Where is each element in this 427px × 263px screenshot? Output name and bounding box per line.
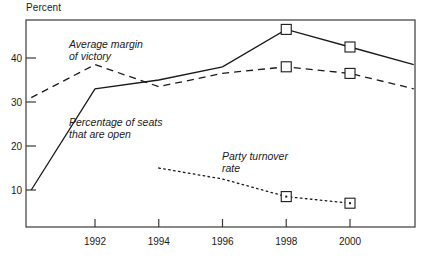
- y-axis-ticks: 10203040: [11, 53, 36, 196]
- data-point-marker: [281, 62, 291, 72]
- y-tick-label: 10: [11, 185, 23, 196]
- x-axis-ticks: 19921994199619982000: [84, 219, 362, 247]
- series-line: [159, 168, 350, 203]
- x-tick-label: 1994: [148, 236, 171, 247]
- line-chart: Percent 10203040 19921994199619982000 Av…: [0, 0, 427, 263]
- x-tick-label: 1992: [84, 236, 107, 247]
- data-point-marker: [281, 24, 291, 34]
- y-tick-label: 40: [11, 53, 23, 64]
- x-tick-label: 1996: [211, 236, 234, 247]
- x-tick-label: 1998: [275, 236, 298, 247]
- series-annotation-percentage-of-seats-that-are-open: Percentage of seatsthat are open: [69, 116, 163, 140]
- data-point-marker-dot: [349, 202, 351, 204]
- series-annotation-average-margin-of-victory: Average marginof victory: [68, 38, 143, 62]
- data-point-marker: [345, 42, 355, 52]
- marker-layer: [281, 24, 355, 208]
- x-tick-label: 2000: [339, 236, 362, 247]
- annotation-layer: Average marginof victoryPercentage of se…: [68, 38, 288, 174]
- plot-area: 10203040 19921994199619982000 Average ma…: [0, 0, 427, 263]
- data-point-marker: [345, 68, 355, 78]
- y-tick-label: 20: [11, 141, 23, 152]
- series-annotation-party-turnover-rate: Party turnoverrate: [222, 150, 288, 174]
- y-axis-unit-label: Percent: [26, 2, 61, 13]
- data-point-marker-dot: [285, 196, 287, 198]
- y-tick-label: 30: [11, 97, 23, 108]
- series-line: [31, 65, 414, 98]
